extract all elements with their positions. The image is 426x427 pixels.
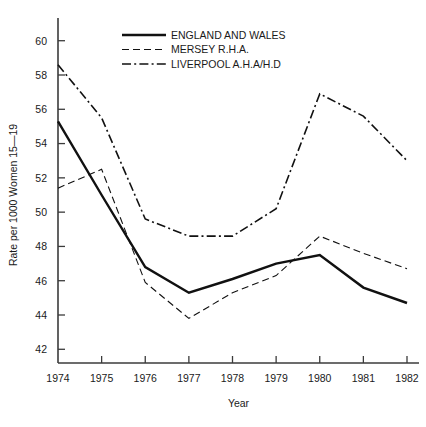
y-axis-title: Rate per 1000 Women 15—19 <box>7 124 19 266</box>
x-tick-label: 1982 <box>395 372 419 384</box>
series-line-0 <box>58 121 407 303</box>
x-tick-label: 1976 <box>134 372 158 384</box>
x-tick-label: 1975 <box>90 372 114 384</box>
x-tick-label: 1980 <box>308 372 332 384</box>
series-line-1 <box>58 169 407 318</box>
y-tick-label: 54 <box>35 137 47 149</box>
x-axis-ticks: 197419751976197719781979198019811982 <box>46 356 419 384</box>
y-tick-label: 44 <box>35 309 47 321</box>
x-axis-title: Year <box>228 397 250 409</box>
plot-area: 42444648505254565860 1974197519761977197… <box>35 18 419 384</box>
legend-label-1: MERSEY R.H.A. <box>171 43 249 55</box>
legend-label-2: LIVERPOOL A.H.A/H.D <box>171 58 281 70</box>
y-tick-label: 60 <box>35 35 47 47</box>
x-tick-label: 1974 <box>46 372 70 384</box>
x-tick-label: 1979 <box>264 372 288 384</box>
x-tick-label: 1981 <box>352 372 376 384</box>
line-chart-svg: 42444648505254565860 1974197519761977197… <box>0 0 426 427</box>
y-axis-ticks: 42444648505254565860 <box>35 35 65 356</box>
x-tick-label: 1977 <box>177 372 201 384</box>
y-tick-label: 46 <box>35 275 47 287</box>
chart-figure: 42444648505254565860 1974197519761977197… <box>0 0 426 427</box>
y-tick-label: 50 <box>35 206 47 218</box>
y-tick-label: 48 <box>35 240 47 252</box>
chart-legend: ENGLAND AND WALESMERSEY R.H.A.LIVERPOOL … <box>122 29 286 70</box>
series-lines <box>58 65 407 319</box>
y-tick-label: 42 <box>35 343 47 355</box>
x-tick-label: 1978 <box>221 372 245 384</box>
legend-label-0: ENGLAND AND WALES <box>171 29 286 41</box>
y-tick-label: 58 <box>35 69 47 81</box>
y-tick-label: 56 <box>35 103 47 115</box>
y-tick-label: 52 <box>35 172 47 184</box>
